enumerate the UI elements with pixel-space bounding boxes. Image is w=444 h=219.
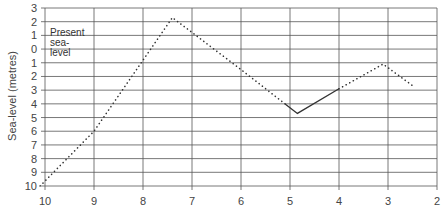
solid-line-segment bbox=[285, 89, 339, 114]
annotation-line-3: level bbox=[50, 48, 84, 58]
chart-grid bbox=[41, 8, 437, 190]
x-tick-label: 2 bbox=[434, 195, 440, 207]
x-tick-label: 3 bbox=[385, 195, 391, 207]
y-tick-label: 3 bbox=[31, 2, 37, 14]
x-tick-label: 10 bbox=[39, 195, 51, 207]
y-tick-label: 5 bbox=[31, 112, 37, 124]
y-tick-label: 8 bbox=[31, 153, 37, 165]
data-series bbox=[40, 18, 415, 186]
y-tick-label: 6 bbox=[31, 125, 37, 137]
y-axis-ticks: 321012345678910 bbox=[25, 2, 37, 192]
y-tick-label: 9 bbox=[31, 166, 37, 178]
x-tick-label: 4 bbox=[336, 195, 342, 207]
y-axis-label: Sea-level (metres) bbox=[6, 46, 18, 146]
y-tick-label: 1 bbox=[31, 29, 37, 41]
x-axis-ticks: 1098765432 bbox=[39, 195, 440, 207]
x-tick-label: 6 bbox=[238, 195, 244, 207]
y-tick-label: 1 bbox=[31, 57, 37, 69]
x-tick-label: 5 bbox=[287, 195, 293, 207]
x-tick-label: 7 bbox=[189, 195, 195, 207]
y-tick-label: 7 bbox=[31, 139, 37, 151]
y-tick-label: 4 bbox=[31, 98, 37, 110]
y-tick-label: 2 bbox=[31, 70, 37, 82]
x-tick-label: 9 bbox=[91, 195, 97, 207]
y-tick-label: 0 bbox=[31, 43, 37, 55]
y-tick-label: 2 bbox=[31, 16, 37, 28]
x-tick-label: 8 bbox=[140, 195, 146, 207]
y-tick-label: 3 bbox=[31, 84, 37, 96]
y-tick-label: 10 bbox=[25, 180, 37, 192]
present-sea-level-annotation: Present sea- level bbox=[50, 28, 84, 58]
